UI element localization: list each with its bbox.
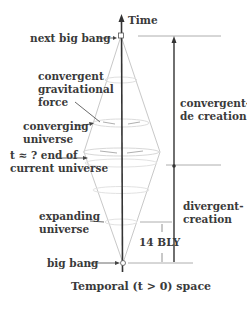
slice-ellipse-5 — [93, 187, 149, 194]
label-convergent-de-creation-1: convergent- — [180, 97, 247, 110]
inward-arrow-left-2 — [100, 151, 117, 153]
time-axis-label: Time — [128, 14, 158, 27]
next-big-bang-marker — [119, 33, 124, 38]
inward-arrow-left-1 — [103, 122, 115, 124]
slice-ellipse-3 — [83, 148, 159, 156]
label-divergent-creation-1: divergent- — [183, 200, 244, 213]
label-next-big-bang: next big bang — [30, 32, 111, 45]
label-big-bang: big bang — [47, 257, 98, 270]
label-converging-universe-2: universe — [23, 133, 73, 146]
label-divergent-creation-2: creation — [183, 213, 232, 226]
convergent-arrowhead — [172, 36, 177, 43]
slice-ellipse-2 — [93, 119, 149, 127]
label-convergent-force-3: force — [38, 96, 68, 109]
time-axis — [122, 20, 123, 272]
big-bang-marker — [121, 261, 126, 266]
label-convergent-de-creation-2: de creation — [180, 110, 247, 123]
inward-arrow-right-2 — [127, 151, 143, 153]
time-axis-arrowhead — [119, 14, 125, 22]
pointer-arrowhead — [115, 261, 120, 265]
label-end-current-2: current universe — [10, 162, 108, 175]
label-temporal-space: Temporal (t > 0) space — [71, 281, 211, 294]
label-convergent-force-2: gravitational — [38, 83, 114, 96]
slice-ellipse-6 — [105, 219, 137, 225]
pointer-arrowhead — [113, 36, 117, 40]
label-convergent-force-1: convergent — [38, 70, 104, 83]
label-end-current-1: t ≈ ? end of — [10, 149, 78, 162]
label-14-bly: 14 BLY — [139, 236, 180, 249]
cone-upper-right — [121, 36, 160, 152]
label-expanding-universe-2: universe — [39, 223, 89, 236]
label-converging-universe-1: converging — [23, 120, 89, 133]
inward-arrow-right-1 — [128, 122, 140, 124]
label-expanding-universe-1: expanding — [39, 210, 100, 223]
creation-midpoint — [172, 164, 176, 168]
